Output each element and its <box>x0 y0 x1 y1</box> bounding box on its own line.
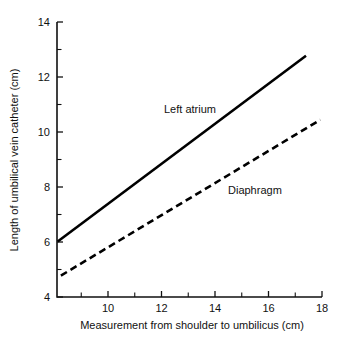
x-tick-label: 18 <box>316 302 328 314</box>
x-tick-label: 12 <box>155 302 167 314</box>
y-tick-label: 12 <box>38 71 50 83</box>
series-label-left-atrium: Left atrium <box>164 103 216 115</box>
chart-canvas: 14 12 10 8 6 4 10 12 14 16 18 Measuremen… <box>0 0 348 337</box>
y-axis-title: Length of umbilical vein catheter (cm) <box>8 69 20 252</box>
x-tick-label: 10 <box>102 302 114 314</box>
x-axis-title: Measurement from shoulder to umbilicus (… <box>80 319 304 331</box>
chart-figure: 14 12 10 8 6 4 10 12 14 16 18 Measuremen… <box>0 0 348 337</box>
x-tick-label: 16 <box>262 302 274 314</box>
chart-background <box>0 0 348 337</box>
series-label-diaphragm: Diaphragm <box>228 184 282 196</box>
y-tick-label: 4 <box>44 291 50 303</box>
y-tick-label: 8 <box>44 181 50 193</box>
y-tick-label: 10 <box>38 126 50 138</box>
y-tick-label: 14 <box>38 16 50 28</box>
x-tick-label: 14 <box>209 302 221 314</box>
y-tick-label: 6 <box>44 236 50 248</box>
